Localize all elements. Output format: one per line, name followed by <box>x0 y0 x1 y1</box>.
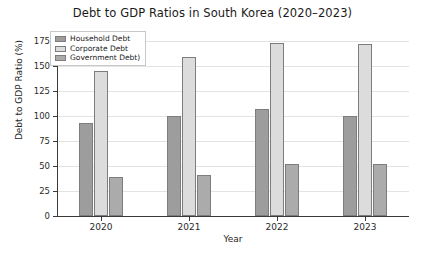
x-tick-label: 2022 <box>266 222 289 232</box>
bar <box>373 164 387 216</box>
y-tick-label: 75 <box>0 136 50 146</box>
bar <box>255 109 269 216</box>
y-tick-label: 25 <box>0 186 50 196</box>
bar <box>167 116 181 216</box>
bar <box>270 43 284 216</box>
bar <box>343 116 357 216</box>
bar <box>79 123 93 216</box>
x-tick-mark <box>365 217 366 221</box>
y-tick-label: 125 <box>0 86 50 96</box>
y-tick-label: 100 <box>0 111 50 121</box>
bar <box>109 177 123 216</box>
bar <box>94 71 108 216</box>
legend-label: Household Debt <box>70 35 130 43</box>
bar-chart: Debt to GDP Ratios in South Korea (2020–… <box>0 0 425 255</box>
legend-swatch-icon <box>55 55 66 61</box>
legend-item[interactable]: Corporate Debt <box>55 45 140 53</box>
bar <box>285 164 299 216</box>
legend-label: Government Debt) <box>70 54 140 62</box>
gridline <box>57 91 409 92</box>
y-tick-label: 175 <box>0 36 50 46</box>
x-tick-mark <box>189 217 190 221</box>
gridline <box>57 66 409 67</box>
legend-swatch-icon <box>55 46 66 52</box>
legend-swatch-icon <box>55 36 66 42</box>
legend-item[interactable]: Household Debt <box>55 35 140 43</box>
bar <box>358 44 372 216</box>
x-axis-spine <box>57 216 409 217</box>
chart-legend: Household DebtCorporate DebtGovernment D… <box>50 31 146 66</box>
chart-title: Debt to GDP Ratios in South Korea (2020–… <box>0 6 425 20</box>
x-tick-mark <box>101 217 102 221</box>
x-tick-label: 2021 <box>178 222 201 232</box>
bar <box>197 175 211 216</box>
x-tick-label: 2023 <box>354 222 377 232</box>
y-tick-label: 50 <box>0 161 50 171</box>
x-tick-mark <box>277 217 278 221</box>
y-tick-label: 0 <box>0 211 50 221</box>
legend-label: Corporate Debt <box>70 45 128 53</box>
x-axis-title: Year <box>57 234 409 244</box>
y-tick-label: 150 <box>0 61 50 71</box>
legend-item[interactable]: Government Debt) <box>55 54 140 62</box>
x-tick-label: 2020 <box>90 222 113 232</box>
bar <box>182 57 196 216</box>
